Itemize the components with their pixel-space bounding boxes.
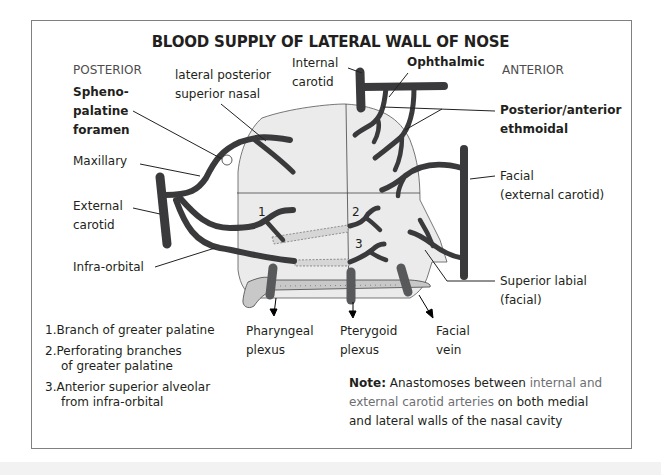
ethmoidal-label: Posterior/anterior ethmoidal [500, 101, 621, 139]
legend-item-2: 2.Perforating branchesof greater palatin… [45, 344, 215, 374]
lateral-posterior-superior-nasal-label: lateral posterior superior nasal [175, 66, 271, 104]
superior-labial-label: Superior labial (facial) [500, 272, 587, 310]
diagram-title: BLOOD SUPPLY OF LATERAL WALL OF NOSE [0, 33, 661, 51]
anastomoses-note: Note: Anastomoses between internal and e… [349, 374, 629, 431]
anterior-label: ANTERIOR [502, 63, 564, 78]
posterior-label: POSTERIOR [73, 63, 142, 78]
infra-orbital-label: Infra-orbital [73, 260, 144, 275]
internal-carotid-label: Internal carotid [292, 54, 338, 92]
sphenopalatine-foramen-label: Spheno- palatine foramen [73, 83, 130, 140]
region-number-3: 3 [355, 237, 363, 252]
facial-artery-label: Facial (external carotid) [500, 167, 604, 205]
region-number-2: 2 [352, 205, 360, 220]
legend-item-3: 3.Anterior superior alveolarfrom infra-o… [45, 380, 215, 410]
pharyngeal-plexus-label: Pharyngeal plexus [246, 322, 314, 360]
external-carotid-label: External carotid [73, 197, 123, 235]
region-number-1: 1 [258, 205, 266, 220]
facial-vein-label: Facial vein [436, 322, 470, 360]
ophthalmic-label: Ophthalmic [407, 55, 485, 70]
numbered-legend: 1.Branch of greater palatine 2.Perforati… [45, 323, 215, 416]
pterygoid-plexus-label: Pterygoid plexus [340, 322, 397, 360]
maxillary-label: Maxillary [73, 154, 127, 169]
external-carotid-vessel [160, 177, 167, 244]
legend-item-1: 1.Branch of greater palatine [45, 323, 215, 338]
